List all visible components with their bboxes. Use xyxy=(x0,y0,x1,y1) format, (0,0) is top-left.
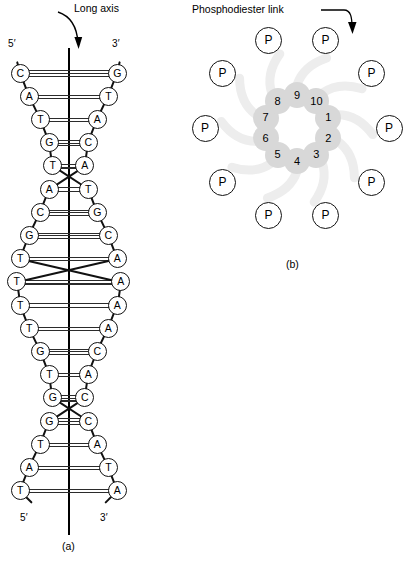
base-left: G xyxy=(40,133,59,152)
hydrogen-bond-rung xyxy=(46,443,91,446)
top-left-end-label: 5′ xyxy=(8,38,16,49)
sugar-arm xyxy=(297,58,327,85)
base-right: A xyxy=(108,296,127,315)
hydrogen-bond-rung xyxy=(26,489,111,492)
base-left: A xyxy=(108,249,127,268)
phosphodiester-pointer-arrow-icon xyxy=(186,0,409,60)
sugar-arm xyxy=(338,115,373,135)
hydrogen-bond-rung xyxy=(46,349,91,354)
phosphate-circle: P xyxy=(192,115,219,142)
phosphate-circle: P xyxy=(209,169,236,196)
base-right: G xyxy=(20,226,39,245)
top-right-end-label: 3′ xyxy=(112,38,120,49)
base-right: C xyxy=(88,342,107,361)
sugar-number-label: 5 xyxy=(270,149,286,160)
base-left: G xyxy=(31,342,50,361)
base-left: T xyxy=(31,110,50,129)
hydrogen-bond-rung xyxy=(35,233,102,238)
sugar-number-label: 3 xyxy=(308,149,324,160)
panel-a-caption: (a) xyxy=(62,540,75,552)
base-right: A xyxy=(20,458,39,477)
base-left: T xyxy=(79,180,98,199)
panel-a-dna-double-helix: Long axis 5′ 3′ 5′ 3′ CGATTAGCTATAGCCGAT… xyxy=(0,0,185,561)
base-left: T xyxy=(99,458,118,477)
base-left: A xyxy=(108,481,127,500)
sugar-number-label: 4 xyxy=(289,156,305,167)
figure-root: Long axis 5′ 3′ 5′ 3′ CGATTAGCTATAGCCGAT… xyxy=(0,0,409,561)
base-right: A xyxy=(88,110,107,129)
hydrogen-bond-rung xyxy=(46,210,91,215)
sugar-number-label: 2 xyxy=(320,133,336,144)
sugar-number-label: 8 xyxy=(270,96,286,107)
sugar-number-label: 10 xyxy=(308,96,324,107)
hydrogen-bond-rung xyxy=(46,118,91,121)
base-left: A xyxy=(20,87,39,106)
panel-b-helical-wheel: Phosphodiester link 12345678910PPPPPPPPP… xyxy=(186,0,409,561)
base-left: T xyxy=(43,156,62,175)
hydrogen-bond-rung xyxy=(26,303,111,306)
base-right: A xyxy=(75,156,94,175)
base-right: A xyxy=(79,365,98,384)
sugar-arm xyxy=(338,141,355,177)
phosphate-circle: P xyxy=(358,169,385,196)
sugar-arm xyxy=(221,121,256,141)
base-right: T xyxy=(31,435,50,454)
bottom-left-end-label: 5′ xyxy=(20,512,28,523)
bottom-right-end-label: 3′ xyxy=(100,512,108,523)
sugar-number-label: 1 xyxy=(320,112,336,123)
sugar-arm xyxy=(322,86,362,93)
base-right: T xyxy=(11,249,30,268)
base-left: C xyxy=(79,412,98,431)
hydrogen-bond-rung xyxy=(26,257,111,260)
base-right: C xyxy=(31,203,50,222)
base-left: G xyxy=(43,388,62,407)
phosphate-circle: P xyxy=(376,115,403,142)
hydrogen-bond-rung xyxy=(35,466,102,469)
sugar-number-label: 6 xyxy=(258,133,274,144)
base-right: T xyxy=(99,87,118,106)
base-right: G xyxy=(108,64,127,83)
base-right: T xyxy=(11,481,30,500)
base-right: C xyxy=(79,133,98,152)
phosphate-circle: P xyxy=(255,202,282,229)
hydrogen-bond-rung xyxy=(35,95,102,98)
sugar-number-label: 7 xyxy=(258,112,274,123)
sugar-arm xyxy=(232,163,272,170)
base-right: C xyxy=(75,388,94,407)
hydrogen-bond-rung xyxy=(35,327,102,330)
base-left: G xyxy=(88,203,107,222)
base-left: A xyxy=(88,435,107,454)
base-right: G xyxy=(40,412,59,431)
sugar-number-label: 9 xyxy=(289,90,305,101)
base-left: C xyxy=(11,64,30,83)
phosphate-circle: P xyxy=(312,202,339,229)
base-left: C xyxy=(99,226,118,245)
base-right: A xyxy=(111,272,130,291)
base-left: T xyxy=(20,319,39,338)
base-left: T xyxy=(11,296,30,315)
long-axis-label: Long axis xyxy=(74,2,119,14)
sugar-arm xyxy=(240,78,257,114)
base-left: T xyxy=(40,365,59,384)
hydrogen-bond-rung xyxy=(26,70,111,75)
base-left: T xyxy=(7,272,26,291)
base-right: A xyxy=(99,319,118,338)
sugar-arm xyxy=(314,163,324,202)
hydrogen-bond-rung xyxy=(23,280,115,283)
sugar-arm xyxy=(267,171,297,198)
base-right: A xyxy=(40,180,59,199)
long-axis-arrow-icon xyxy=(56,10,90,52)
